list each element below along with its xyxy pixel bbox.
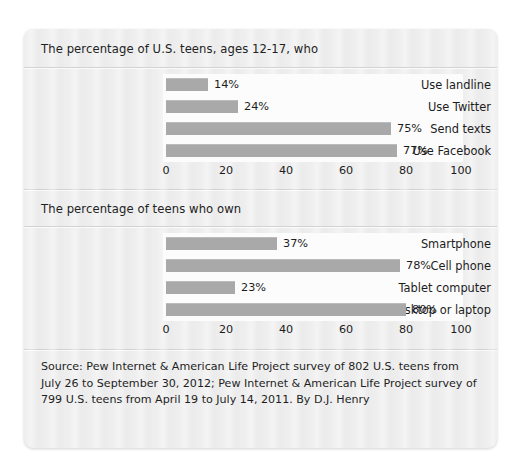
table-row: Use Facebook 77% [24, 140, 497, 162]
chart-2-xtick-3: 60 [339, 323, 353, 336]
chart-2-axis-inner: 0 20 40 60 80 100 [163, 321, 463, 340]
chart-1-xtick-2: 40 [279, 164, 293, 177]
source-note: Source: Pew Internet & American Life Pro… [24, 350, 497, 409]
infographic-card: The percentage of U.S. teens, ages 12-17… [24, 29, 497, 448]
table-row: Use landline 14% [24, 74, 497, 96]
table-row: Smartphone 37% [24, 233, 497, 255]
chart-2-xtick-0: 0 [162, 323, 169, 336]
chart-1-bar-track-1: 24% [163, 96, 463, 118]
chart-1-x-axis: 0 20 40 60 80 100 [24, 162, 497, 181]
chart-1-value-3: 77% [397, 140, 428, 162]
chart-section-1: The percentage of U.S. teens, ages 12-17… [24, 29, 497, 181]
chart-1-axis-inner: 0 20 40 60 80 100 [163, 162, 463, 181]
chart-2-bar-1 [166, 259, 400, 272]
table-row: Tablet computer 23% [24, 277, 497, 299]
chart-1-xtick-1: 20 [219, 164, 233, 177]
chart-1-bar-track-3: 77% [163, 140, 463, 162]
chart-1-xtick-4: 80 [399, 164, 413, 177]
chart-1-xtick-3: 60 [339, 164, 353, 177]
chart-2-bar-2 [166, 281, 235, 294]
chart-2-value-3: 80% [406, 299, 437, 321]
chart-2-bar-track-0: 37% [163, 233, 463, 255]
chart-2-bar-3 [166, 303, 406, 316]
table-row: Use Twitter 24% [24, 96, 497, 118]
chart-2-rows: Smartphone 37% Cell phone 78% Tablet com… [24, 233, 497, 321]
chart-1-bar-2 [166, 122, 391, 135]
chart-2-bar-track-3: 80% [163, 299, 463, 321]
chart-2-x-axis: 0 20 40 60 80 100 [24, 321, 497, 340]
chart-1-value-0: 14% [208, 74, 239, 96]
chart-2: Smartphone 37% Cell phone 78% Tablet com… [24, 233, 497, 340]
section-1-title: The percentage of U.S. teens, ages 12-17… [24, 42, 497, 56]
chart-1-bar-3 [166, 144, 397, 157]
chart-2-bar-0 [166, 237, 277, 250]
chart-2-bar-track-1: 78% [163, 255, 463, 277]
table-row: Desktop or laptop 80% [24, 299, 497, 321]
chart-1-xtick-5: 100 [450, 164, 471, 177]
chart-2-bar-track-2: 23% [163, 277, 463, 299]
chart-1-value-1: 24% [238, 96, 269, 118]
chart-2-xtick-5: 100 [450, 323, 471, 336]
table-row: Send texts 75% [24, 118, 497, 140]
chart-1-bar-track-0: 14% [163, 74, 463, 96]
chart-2-xtick-4: 80 [399, 323, 413, 336]
chart-2-xtick-1: 20 [219, 323, 233, 336]
chart-2-xtick-2: 40 [279, 323, 293, 336]
chart-1-value-2: 75% [391, 118, 422, 140]
chart-2-value-2: 23% [235, 277, 266, 299]
table-row: Cell phone 78% [24, 255, 497, 277]
chart-1-bar-0 [166, 78, 208, 91]
chart-1-rows: Use landline 14% Use Twitter 24% Send te… [24, 74, 497, 162]
section-2-title: The percentage of teens who own [24, 202, 497, 216]
chart-1-xtick-0: 0 [162, 164, 169, 177]
chart-2-value-0: 37% [277, 233, 308, 255]
chart-1-bar-track-2: 75% [163, 118, 463, 140]
chart-2-value-1: 78% [400, 255, 431, 277]
chart-1: Use landline 14% Use Twitter 24% Send te… [24, 74, 497, 181]
chart-section-2: The percentage of teens who own Smartpho… [24, 190, 497, 340]
chart-1-bar-1 [166, 100, 238, 113]
